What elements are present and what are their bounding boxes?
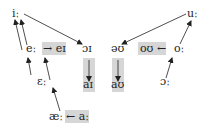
vowel-u-long: uː [187,8,198,20]
arrow-i-to-oi [24,14,82,44]
arrow-o-to-u [180,21,191,44]
vowel-o-long: oː [174,43,184,55]
vowel-i-long: iː [12,8,19,20]
arrow-eps-to-e [28,58,31,75]
arrow-u-to-ou [122,14,186,44]
diphthong-oi: ɔɪ [82,43,92,55]
diphthong-au: aʊ [111,79,124,91]
diphthong-ei: → eɪ [43,43,66,55]
vowel-open-o-long: ɔː [160,76,170,88]
diphthong-schwa-u: əʊ [111,43,124,55]
diphthong-ou: oʊ ← [140,43,166,55]
arrow-e-to-i-1 [15,20,22,50]
arrow-layer [0,0,209,134]
vowel-a-long: ← aː [66,111,89,123]
arrow-ae-to-eps [53,88,60,111]
vowel-ae-long: æː [49,111,63,123]
vowel-open-e-long: ɛː [37,76,46,88]
diphthong-ai: aɪ [83,79,93,91]
vowel-e-long: eː [26,43,36,55]
